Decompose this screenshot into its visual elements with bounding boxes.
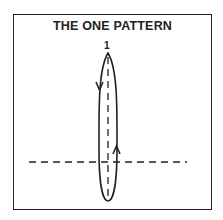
pattern-drawing — [0, 0, 223, 220]
